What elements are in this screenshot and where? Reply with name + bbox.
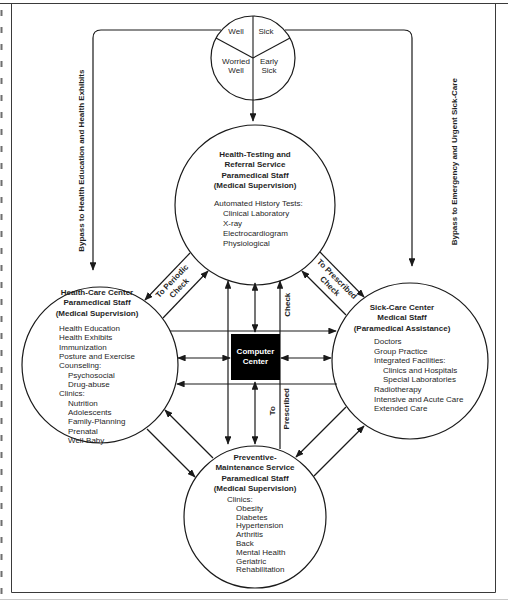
testing-circle-list: Automated History Tests: Clinical Labora… (214, 199, 303, 249)
health-care-title-line: Health-Care Center (27, 288, 167, 298)
sick-care-title-line: Sick-Care Center (330, 303, 474, 313)
testing-title-line: Health-Testing and (183, 150, 327, 160)
preventive-title-line: (Medical Supervision) (185, 484, 325, 494)
scanned-flow-diagram-page: Well Sick Worried Well Early Sick Bypass… (0, 0, 508, 609)
list-item: X-ray (214, 219, 303, 229)
preventive-circle-list: Clinics: Obesity Diabetes Hypertension A… (227, 496, 285, 575)
list-item: Immunization (59, 343, 135, 352)
list-item: Rehabilitation (227, 566, 285, 575)
sick-care-title-line: Medical Staff (330, 313, 474, 323)
to-label: To (268, 396, 277, 426)
list-item: Physiological (214, 239, 303, 249)
testing-title-line: Referral Service (183, 160, 327, 170)
list-item: Group Practice (374, 347, 463, 357)
preventive-title-line: Preventive- (185, 453, 325, 463)
list-item: Well-Baby (59, 436, 135, 445)
list-item: Psychosocial (59, 371, 135, 380)
sick-care-circle-list: Doctors Group Practice Integrated Facili… (374, 337, 463, 414)
list-item: Clinics: (59, 389, 135, 398)
sick-care-circle-title: Sick-Care Center Medical Staff (Paramedi… (330, 303, 474, 334)
list-item: Counseling: (59, 361, 135, 370)
bypass-left-label: Bypass to Health Education and Health Ex… (77, 63, 86, 259)
list-item: Intensive and Acute Care (374, 395, 463, 405)
prescribed-label: Prescribed (282, 379, 291, 439)
check-label: Check (283, 283, 292, 327)
bypass-right-line (285, 30, 412, 266)
arrow-preventive-to-healthcare (165, 410, 213, 458)
list-item: Special Laboratories (374, 375, 463, 385)
triage-segment-early-sick: Early Sick (246, 57, 292, 75)
list-item: Family-Planning (59, 417, 135, 426)
list-item: Health Education (59, 324, 135, 333)
list-item: Electrocardiogram (214, 229, 303, 239)
list-item: Clinical Laboratory (214, 209, 303, 219)
preventive-title-line: Maintenance Service (185, 463, 325, 473)
list-item: Automated History Tests: (214, 199, 303, 209)
list-item: Clinics and Hospitals (374, 366, 463, 376)
testing-circle-title: Health-Testing and Referral Service Para… (183, 150, 327, 191)
list-item: Integrated Facilities: (374, 356, 463, 366)
sick-care-title-line: (Paramedical Assistance) (330, 324, 474, 334)
list-item: Health Exhibits (59, 333, 135, 342)
health-care-circle-list: Health Education Health Exhibits Immuniz… (59, 324, 135, 445)
list-item: Extended Care (374, 404, 463, 414)
list-item: Nutrition (59, 399, 135, 408)
bypass-right-label: Bypass to Emergency and Urgent Sick-Care (450, 64, 459, 260)
computer-center-label: Computer Center (231, 334, 280, 380)
triage-segment-sick: Sick (246, 27, 286, 36)
list-item: Doctors (374, 337, 463, 347)
list-item: Prenatal (59, 427, 135, 436)
list-item: Drug-abuse (59, 380, 135, 389)
testing-title-line: Paramedical Staff (183, 171, 327, 181)
list-item: Radiotherapy (374, 385, 463, 395)
health-care-title-line: Paramedical Staff (27, 298, 167, 308)
arrow-sickcare-to-preventive (296, 407, 346, 457)
list-item: Adolescents (59, 408, 135, 417)
health-care-title-line: (Medical Supervision) (27, 309, 167, 319)
preventive-circle-title: Preventive- Maintenance Service Paramedi… (185, 453, 325, 494)
list-item: Posture and Exercise (59, 352, 135, 361)
preventive-title-line: Paramedical Staff (185, 474, 325, 484)
testing-title-line: (Medical Supervision) (183, 181, 327, 191)
health-care-circle-title: Health-Care Center Paramedical Staff (Me… (27, 288, 167, 319)
